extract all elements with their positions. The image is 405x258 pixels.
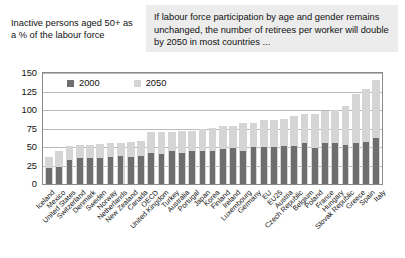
bar-group[interactable]: [228, 73, 238, 184]
bar-2000[interactable]: [138, 156, 144, 184]
bar-group[interactable]: [310, 73, 320, 184]
y-axis-tick: 125: [21, 87, 37, 97]
bar-group[interactable]: [156, 73, 166, 184]
legend-label: 2050: [146, 78, 167, 88]
bar-group[interactable]: [248, 73, 258, 184]
bar-2000[interactable]: [312, 148, 318, 184]
plot-area: [43, 73, 382, 184]
bar-group[interactable]: [320, 73, 330, 184]
bar-2000[interactable]: [271, 147, 277, 184]
bar-group[interactable]: [105, 73, 115, 184]
y-axis-labels: 0255075100125150: [0, 72, 40, 185]
y-axis-tick: 50: [27, 142, 37, 152]
callout-text: If labour force participation by age and…: [154, 12, 389, 47]
bar-2000[interactable]: [322, 143, 328, 184]
bar-2000[interactable]: [220, 149, 226, 184]
bar-group[interactable]: [44, 73, 54, 184]
bar-2000[interactable]: [332, 143, 338, 184]
bar-group[interactable]: [330, 73, 340, 184]
bar-2000[interactable]: [148, 153, 154, 184]
bar-2000[interactable]: [240, 151, 246, 184]
bar-group[interactable]: [167, 73, 177, 184]
bar-group[interactable]: [361, 73, 371, 184]
chart-page: Inactive persons aged 50+ as a % of the …: [0, 0, 405, 258]
bar-2000[interactable]: [118, 156, 124, 184]
bar-group[interactable]: [64, 73, 74, 184]
bar-2000[interactable]: [200, 151, 206, 184]
callout-box: If labour force participation by age and…: [146, 5, 398, 52]
bar-2000[interactable]: [46, 168, 52, 184]
bar-group-container: [44, 73, 381, 184]
bar-2000[interactable]: [67, 160, 73, 184]
bar-2000[interactable]: [56, 167, 62, 184]
bar-2000[interactable]: [230, 148, 236, 184]
bar-2000[interactable]: [363, 142, 369, 184]
bar-2000[interactable]: [128, 157, 134, 184]
bar-2000[interactable]: [87, 158, 93, 184]
bar-2000[interactable]: [291, 146, 297, 184]
bar-group[interactable]: [146, 73, 156, 184]
bar-2000[interactable]: [169, 151, 175, 184]
legend-swatch: [67, 80, 74, 87]
bar-group[interactable]: [197, 73, 207, 184]
bar-2000[interactable]: [159, 154, 165, 184]
bar-2000[interactable]: [302, 143, 308, 184]
bar-group[interactable]: [371, 73, 381, 184]
x-axis-labels: IcelandMexicoUnited StatesSwitzerlandDen…: [42, 186, 383, 256]
bar-group[interactable]: [116, 73, 126, 184]
bar-group[interactable]: [95, 73, 105, 184]
bar-group[interactable]: [289, 73, 299, 184]
bar-2000[interactable]: [179, 153, 185, 184]
chart-caption: Inactive persons aged 50+ as a % of the …: [11, 17, 136, 42]
bar-group[interactable]: [187, 73, 197, 184]
bar-group[interactable]: [218, 73, 228, 184]
bar-group[interactable]: [279, 73, 289, 184]
bar-group[interactable]: [54, 73, 64, 184]
bar-group[interactable]: [85, 73, 95, 184]
bar-2000[interactable]: [373, 138, 379, 184]
legend-swatch: [134, 80, 141, 87]
bar-chart: 20002050: [42, 72, 383, 185]
y-axis-tick: 100: [21, 105, 37, 115]
y-axis-tick: 150: [21, 68, 37, 78]
bar-group[interactable]: [75, 73, 85, 184]
bar-group[interactable]: [351, 73, 361, 184]
bar-group[interactable]: [259, 73, 269, 184]
bar-group[interactable]: [136, 73, 146, 184]
x-axis-tick: Germany: [249, 186, 259, 256]
bar-2000[interactable]: [353, 143, 359, 184]
bar-2000[interactable]: [251, 147, 257, 184]
bar-2000[interactable]: [77, 158, 83, 184]
bar-2000[interactable]: [281, 146, 287, 184]
bar-2000[interactable]: [343, 145, 349, 184]
bar-2000[interactable]: [108, 157, 114, 184]
bar-2000[interactable]: [189, 151, 195, 184]
y-axis-tick: 0: [32, 179, 37, 189]
bar-group[interactable]: [126, 73, 136, 184]
bar-group[interactable]: [340, 73, 350, 184]
bar-2000[interactable]: [97, 158, 103, 184]
x-axis-label: Italy: [372, 188, 388, 204]
bar-group[interactable]: [299, 73, 309, 184]
legend-item[interactable]: 2050: [134, 78, 167, 88]
bar-group[interactable]: [208, 73, 218, 184]
legend-label: 2000: [79, 78, 100, 88]
bar-group[interactable]: [177, 73, 187, 184]
bar-group[interactable]: [269, 73, 279, 184]
bar-2000[interactable]: [261, 147, 267, 184]
bar-group[interactable]: [238, 73, 248, 184]
y-axis-tick: 25: [27, 161, 37, 171]
chart-legend: 20002050: [67, 78, 166, 88]
legend-item[interactable]: 2000: [67, 78, 100, 88]
bar-2000[interactable]: [210, 151, 216, 184]
x-axis-tick: Italy: [373, 186, 383, 256]
y-axis-tick: 75: [27, 124, 37, 134]
